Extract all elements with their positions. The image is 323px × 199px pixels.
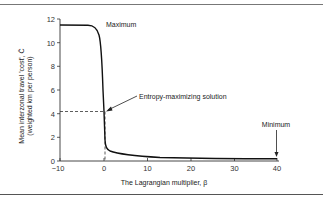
svg-text:2: 2 [51, 133, 55, 142]
maximum-label: Maximum [106, 21, 137, 28]
svg-text:20: 20 [187, 164, 195, 173]
svg-text:4: 4 [51, 110, 55, 119]
y-tick-labels: 0 2 4 6 8 10 12 [47, 15, 55, 166]
minimum-label: Minimum [262, 121, 291, 128]
svg-text:10: 10 [143, 164, 151, 173]
svg-text:10: 10 [47, 39, 55, 48]
svg-text:(weighted km per person): (weighted km per person) [26, 56, 34, 135]
cost-curve [60, 25, 277, 159]
minimum-annotation: Minimum [262, 121, 291, 157]
chart: 0 2 4 6 8 10 12 −10 0 10 20 30 40 Maximu… [0, 0, 323, 199]
svg-text:−10: −10 [52, 164, 65, 173]
entropy-label: Entropy-maximizing solution [139, 93, 227, 101]
arrowhead-icon [106, 107, 113, 112]
svg-text:40: 40 [273, 164, 281, 173]
entropy-annotation: Entropy-maximizing solution [106, 93, 227, 112]
svg-text:Mean interzonal travel 'cost',: Mean interzonal travel 'cost', C̄ [18, 48, 25, 143]
svg-text:12: 12 [47, 15, 55, 24]
svg-text:30: 30 [230, 164, 238, 173]
y-axis-title: Mean interzonal travel 'cost', C̄ (weigh… [18, 48, 34, 143]
x-axis-title: The Lagrangian multiplier, β [121, 179, 208, 187]
svg-text:0: 0 [102, 164, 106, 173]
arrowhead-icon [275, 152, 279, 157]
svg-text:8: 8 [51, 62, 55, 71]
x-tick-labels: −10 0 10 20 30 40 [52, 164, 282, 173]
svg-text:6: 6 [51, 86, 55, 95]
